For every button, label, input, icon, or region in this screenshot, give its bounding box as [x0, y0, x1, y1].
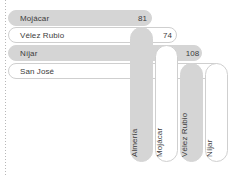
- column-header-label: Vélez Rubio: [180, 113, 189, 157]
- left-dotted-rule: [5, 0, 6, 175]
- column-header-label: Mojácar: [155, 128, 164, 157]
- table-row[interactable]: Mojácar 81: [8, 10, 152, 26]
- table-cell: 108: [181, 49, 204, 58]
- table-cell: 81: [131, 14, 154, 23]
- column-header-velez-rubio[interactable]: Vélez Rubio: [180, 63, 203, 162]
- row-label: San José: [20, 67, 54, 76]
- column-header-label: Níjar: [205, 140, 214, 157]
- column-header-nijar[interactable]: Níjar: [205, 63, 228, 162]
- row-label: Vélez Rubio: [20, 31, 64, 40]
- column-header-label: Almería: [130, 129, 139, 157]
- column-header-mojacar[interactable]: Mojácar: [155, 45, 178, 162]
- column-header-almeria[interactable]: Almería: [130, 27, 153, 162]
- distance-matrix-chart: Mojácar 81 Vélez Rubio 138 74 Níjar 33 5…: [0, 0, 233, 175]
- row-label: Mojácar: [20, 14, 49, 23]
- row-label: Níjar: [20, 49, 37, 58]
- table-cell: 74: [156, 31, 179, 40]
